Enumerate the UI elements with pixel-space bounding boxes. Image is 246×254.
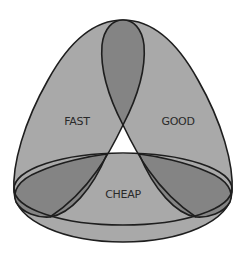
diagram-svg: FAST GOOD CHEAP — [0, 0, 246, 254]
label-fast: FAST — [64, 115, 90, 128]
label-cheap: CHEAP — [105, 188, 141, 201]
label-good: GOOD — [161, 115, 194, 128]
venn-diagram: FAST GOOD CHEAP — [0, 0, 246, 254]
